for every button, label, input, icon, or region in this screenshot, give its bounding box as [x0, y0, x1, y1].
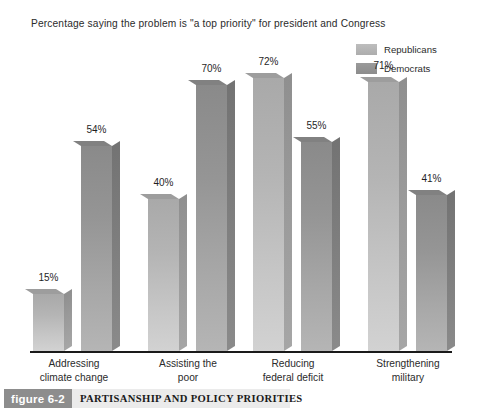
bar-side-face	[447, 190, 455, 351]
bar-front-face	[148, 199, 179, 351]
figure-caption-text: PARTISANSHIP AND POLICY PRIORITIES	[80, 389, 303, 408]
bar-value-label: 54%	[86, 124, 106, 135]
x-axis-label-reducing-federal-deficit: Reducing federal deficit	[233, 357, 353, 384]
x-axis-label-line-1: Reducing	[233, 357, 353, 371]
x-axis-label-line-1: Addressing	[14, 357, 134, 371]
bar-side-face	[284, 73, 292, 351]
bar-democrats-assisting-the-poor: 70%	[196, 85, 227, 351]
figure-container: Percentage saying the problem is "a top …	[0, 0, 482, 414]
bar-front-face	[81, 146, 112, 351]
bar-value-label: 70%	[201, 63, 221, 74]
x-axis-label-strengthening-military: Strengthening military	[348, 357, 468, 384]
bar-front-face	[416, 195, 447, 351]
bar-front-face	[253, 78, 284, 351]
x-axis-label-line-2: federal deficit	[233, 371, 353, 385]
figure-number-tag: figure 6-2	[4, 389, 72, 408]
bar-value-label: 41%	[421, 173, 441, 184]
bar-value-label: 55%	[306, 120, 326, 131]
bar-front-face	[368, 82, 399, 351]
bar-democrats-strengthening-military: 41%	[416, 195, 447, 351]
bar-value-label: 15%	[38, 272, 58, 283]
x-axis-label-line-2: climate change	[14, 371, 134, 385]
x-axis-label-line-1: Assisting the	[128, 357, 248, 371]
legend-swatch-republicans	[356, 44, 377, 55]
x-axis-label-assisting-the-poor: Assisting the poor	[128, 357, 248, 384]
bar-side-face	[227, 80, 235, 351]
bar-democrats-reducing-federal-deficit: 55%	[301, 142, 332, 351]
bar-side-face	[64, 289, 72, 351]
bar-value-label: 72%	[258, 56, 278, 67]
plot-area: 15% 54% 40% 70% 72%	[0, 80, 482, 353]
bar-value-label: 71%	[373, 60, 393, 71]
x-axis-label-line-1: Strengthening	[348, 357, 468, 371]
bar-republicans-addressing-climate-change: 15%	[33, 294, 64, 351]
x-axis-label-line-2: poor	[128, 371, 248, 385]
x-axis-label-line-2: military	[348, 371, 468, 385]
x-axis-category-labels: Addressing climate change Assisting the …	[0, 357, 482, 389]
bar-side-face	[112, 141, 120, 351]
bar-front-face	[196, 85, 227, 351]
bar-front-face	[301, 142, 332, 351]
bar-republicans-strengthening-military: 71%	[368, 82, 399, 351]
chart-title: Percentage saying the problem is "a top …	[31, 18, 385, 29]
x-axis-label-addressing-climate-change: Addressing climate change	[14, 357, 134, 384]
x-axis-line	[30, 351, 452, 353]
bar-value-label: 40%	[153, 177, 173, 188]
bar-democrats-addressing-climate-change: 54%	[81, 146, 112, 351]
bar-side-face	[332, 137, 340, 351]
bar-side-face	[179, 194, 187, 351]
bar-front-face	[33, 294, 64, 351]
bar-side-face	[399, 77, 407, 351]
legend-label-republicans: Republicans	[384, 44, 437, 55]
bar-republicans-reducing-federal-deficit: 72%	[253, 78, 284, 351]
legend-item-republicans: Republicans	[356, 42, 476, 57]
bar-republicans-assisting-the-poor: 40%	[148, 199, 179, 351]
